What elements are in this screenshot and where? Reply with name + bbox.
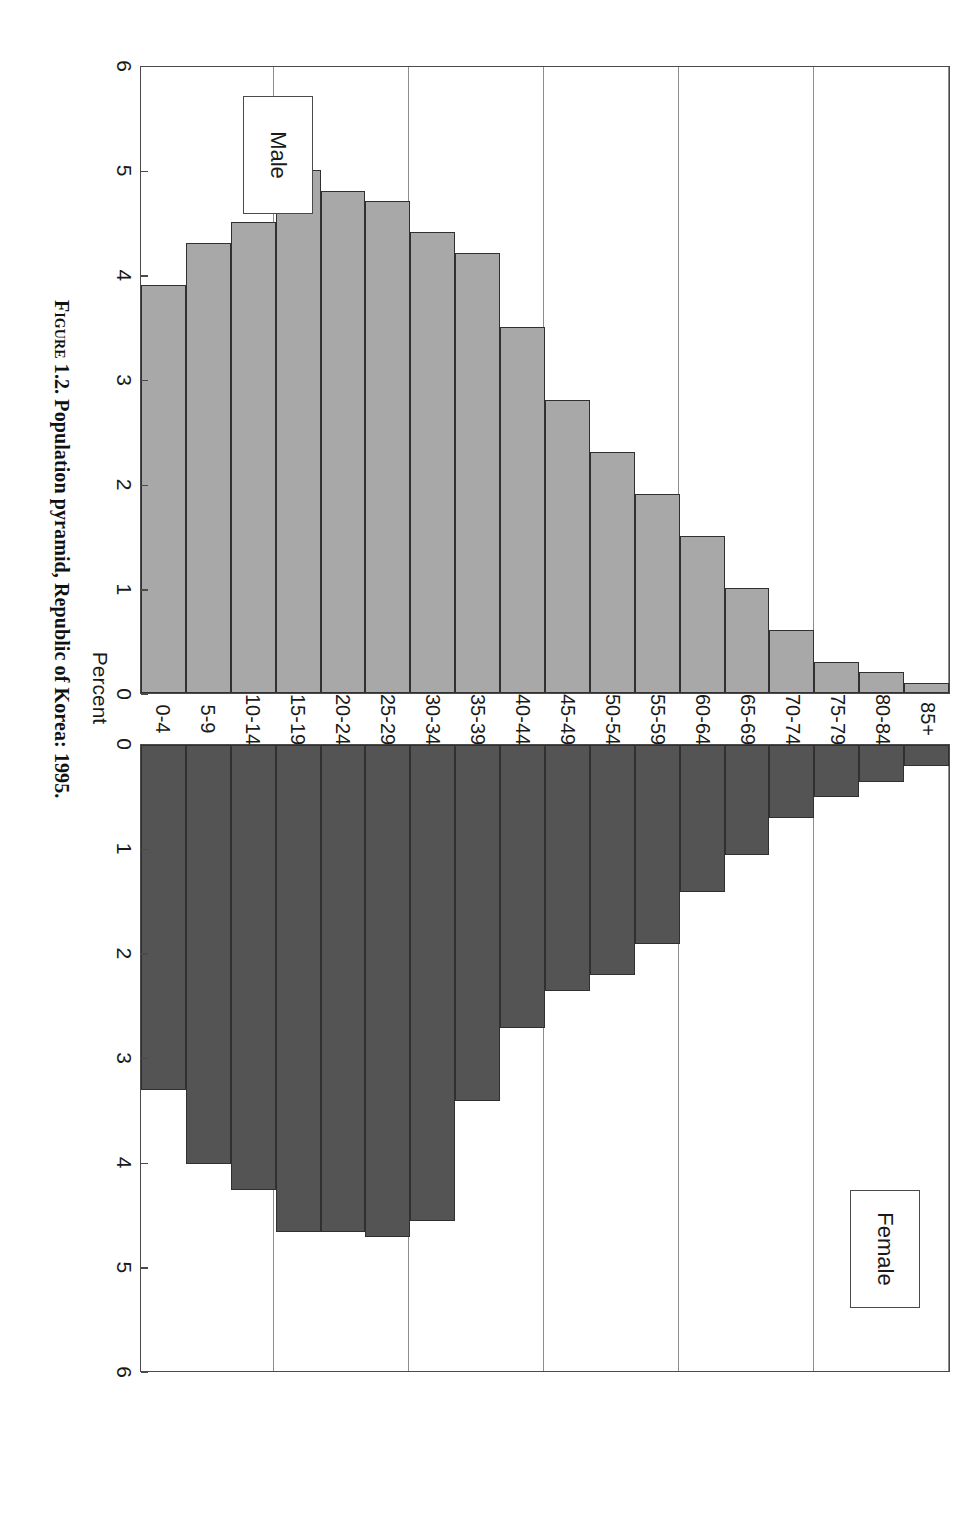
bar-female-75-79	[814, 745, 859, 797]
female-percent-axis: 0123456	[100, 744, 140, 1372]
bar-female-30-34	[410, 745, 455, 1221]
age-label-35-39: 35-39	[466, 694, 489, 744]
bar-row	[321, 745, 366, 1371]
tick-mark	[141, 66, 148, 67]
bar-female-55-59	[635, 745, 680, 944]
tick-label-1: 1	[112, 834, 136, 864]
bar-male-10-14	[231, 222, 276, 693]
tick-label-5: 5	[112, 1252, 136, 1282]
bar-row	[365, 745, 410, 1371]
bar-female-0-4	[141, 745, 186, 1090]
tick-label-4: 4	[112, 260, 136, 290]
tick-label-4: 4	[112, 1148, 136, 1178]
bar-female-10-14	[231, 745, 276, 1190]
bar-row	[680, 67, 725, 693]
bar-row	[231, 745, 276, 1371]
bar-row	[635, 67, 680, 693]
age-label-30-34: 30-34	[421, 694, 444, 744]
bar-male-70-74	[769, 630, 814, 693]
bar-row	[725, 745, 770, 1371]
tick-mark	[141, 744, 148, 745]
tick-label-6: 6	[112, 51, 136, 81]
bar-female-25-29	[365, 745, 410, 1237]
percent-axis-title: Percent	[88, 652, 112, 724]
bar-female-85+	[904, 745, 949, 766]
tick-label-1: 1	[112, 574, 136, 604]
bar-row	[769, 67, 814, 693]
tick-mark	[141, 380, 148, 381]
tick-mark	[141, 849, 148, 850]
tick-mark	[141, 1058, 148, 1059]
tick-label-3: 3	[112, 365, 136, 395]
tick-mark	[141, 485, 148, 486]
bar-male-65-69	[725, 588, 770, 693]
bar-male-30-34	[410, 232, 455, 693]
age-label-10-14: 10-14	[241, 694, 264, 744]
tick-label-2: 2	[112, 938, 136, 968]
bar-female-40-44	[500, 745, 545, 1028]
bar-row	[769, 745, 814, 1371]
legend-female: Female	[850, 1190, 920, 1308]
figure-caption: Figure 1.2. Population pyramid, Republic…	[50, 300, 73, 1240]
tick-label-5: 5	[112, 156, 136, 186]
tick-mark	[141, 589, 148, 590]
age-label-70-74: 70-74	[781, 694, 804, 744]
bar-male-5-9	[186, 243, 231, 693]
age-label-65-69: 65-69	[736, 694, 759, 744]
bar-row	[276, 745, 321, 1371]
bar-female-20-24	[321, 745, 366, 1232]
bar-female-80-84	[859, 745, 904, 782]
bar-female-15-19	[276, 745, 321, 1232]
age-label-40-44: 40-44	[511, 694, 534, 744]
bar-row	[859, 67, 904, 693]
tick-label-0: 0	[112, 729, 136, 759]
tick-label-6: 6	[112, 1357, 136, 1387]
bar-row	[545, 67, 590, 693]
tick-mark	[141, 953, 148, 954]
bar-row	[725, 67, 770, 693]
bar-male-15-19	[276, 170, 321, 693]
age-label-20-24: 20-24	[331, 694, 354, 744]
age-label-15-19: 15-19	[286, 694, 309, 744]
bar-female-50-54	[590, 745, 635, 975]
bar-male-55-59	[635, 494, 680, 693]
tick-mark	[141, 1267, 148, 1268]
tick-label-0: 0	[112, 679, 136, 709]
legend-female-label: Female	[872, 1212, 898, 1285]
figure-stage: Male Female 85+80-8475-7970-7465-6960-64…	[0, 0, 978, 1525]
bar-male-75-79	[814, 662, 859, 693]
age-label-5-9: 5-9	[196, 694, 219, 744]
tick-mark	[141, 694, 148, 695]
tick-mark	[141, 1163, 148, 1164]
bar-row	[814, 67, 859, 693]
tick-mark	[141, 1372, 148, 1373]
female-plot-area	[141, 745, 949, 1371]
bar-row	[545, 745, 590, 1371]
bar-male-25-29	[365, 201, 410, 693]
bar-male-0-4	[141, 285, 186, 693]
bar-female-70-74	[769, 745, 814, 818]
bar-male-20-24	[321, 191, 366, 693]
legend-male: Male	[243, 96, 313, 214]
bar-row	[500, 67, 545, 693]
bar-row	[186, 745, 231, 1371]
age-label-45-49: 45-49	[556, 694, 579, 744]
bar-male-85+	[904, 683, 949, 693]
age-label-55-59: 55-59	[646, 694, 669, 744]
figure-number: Figure 1.2.	[51, 300, 73, 394]
bar-male-40-44	[500, 327, 545, 693]
bar-row	[186, 67, 231, 693]
bar-male-80-84	[859, 672, 904, 693]
bar-male-50-54	[590, 452, 635, 693]
age-label-50-54: 50-54	[601, 694, 624, 744]
bar-male-35-39	[455, 253, 500, 693]
bar-row	[635, 745, 680, 1371]
bar-male-45-49	[545, 400, 590, 693]
age-label-80-84: 80-84	[871, 694, 894, 744]
legend-male-label: Male	[265, 131, 291, 179]
bar-male-60-64	[680, 536, 725, 693]
age-label-60-64: 60-64	[691, 694, 714, 744]
female-bar-group	[141, 745, 949, 1371]
figure-caption-text: Population pyramid, Republic of Korea: 1…	[51, 399, 73, 798]
tick-mark	[141, 275, 148, 276]
